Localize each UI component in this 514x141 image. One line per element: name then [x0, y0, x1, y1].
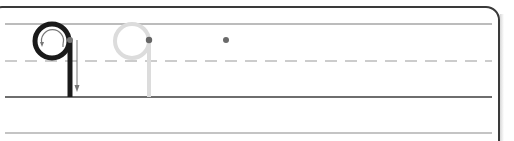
practice-start-dot	[223, 37, 229, 43]
trace-start-dot	[146, 37, 152, 43]
handwriting-guides	[0, 0, 514, 141]
circular-arrow-icon	[42, 30, 64, 44]
model-start-dot	[67, 37, 73, 43]
